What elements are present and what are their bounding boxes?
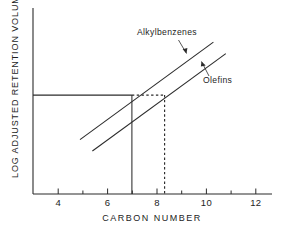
annotation-label-olefins: Olefins xyxy=(203,75,232,85)
x-tick-label-4: 4 xyxy=(55,197,61,208)
x-tick-label-8: 8 xyxy=(154,197,160,208)
x-axis-title: CARBON NUMBER xyxy=(102,213,202,223)
x-tick-label-6: 6 xyxy=(105,197,111,208)
chart-container: 4 6 8 10 12 CARBON NUMBER LOG ADJUSTED R… xyxy=(0,0,285,231)
x-tick-label-10: 10 xyxy=(201,197,212,208)
x-tick-label-12: 12 xyxy=(250,197,261,208)
annotation-label-alkylbenzenes: Alkylbenzenes xyxy=(137,27,197,37)
retention-volume-chart: 4 6 8 10 12 CARBON NUMBER LOG ADJUSTED R… xyxy=(0,0,285,231)
y-axis-title: LOG ADJUSTED RETENTION VOLUME xyxy=(10,0,20,178)
